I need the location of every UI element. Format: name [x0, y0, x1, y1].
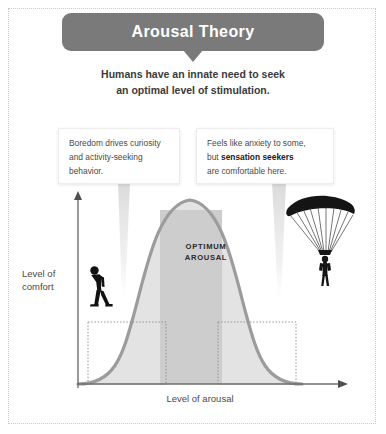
subtitle-line-2: an optimal level of stimulation.	[43, 82, 343, 98]
arousal-theory-infographic: Arousal Theory Humans have an innate nee…	[0, 0, 386, 434]
callout-right-line-2-emphasis: sensation seekers	[221, 152, 294, 162]
arousal-curve-chart	[18, 186, 368, 416]
callout-left-line-3: behavior.	[69, 165, 170, 179]
title-banner-box: Arousal Theory	[62, 13, 324, 51]
title-banner-tail-icon	[183, 50, 203, 62]
paraglider-silhouette-icon	[286, 196, 354, 286]
subtitle-line-1: Humans have an innate need to seek	[43, 66, 343, 82]
title-banner: Arousal Theory	[62, 13, 324, 63]
callout-right-line-2: but sensation seekers	[207, 151, 324, 165]
optimum-label-line-2: AROUSAL	[160, 252, 252, 263]
x-axis-label: Level of arousal	[100, 393, 300, 406]
callout-left-line-2: and activity-seeking	[69, 151, 170, 165]
callout-high-arousal: Feels like anxiety to some, but sensatio…	[196, 128, 334, 184]
callout-low-arousal: Boredom drives curiosity and activity-se…	[58, 128, 180, 184]
subtitle: Humans have an innate need to seek an op…	[43, 66, 343, 99]
callout-right-line-2-prefix: but	[207, 152, 221, 162]
optimum-label-line-1: OPTIMUM	[160, 241, 252, 252]
y-axis-label: Level of comfort	[22, 268, 72, 294]
callout-right-line-3: are comfortable here.	[207, 165, 324, 179]
y-axis-label-line-1: Level of	[22, 268, 72, 281]
callout-right-line-1: Feels like anxiety to some,	[207, 137, 324, 151]
x-axis-arrow-icon	[338, 380, 348, 388]
page-title: Arousal Theory	[132, 24, 255, 40]
y-axis-arrow-icon	[74, 191, 82, 200]
optimum-arousal-label: OPTIMUM AROUSAL	[160, 241, 252, 263]
callout-left-line-1: Boredom drives curiosity	[69, 137, 170, 151]
optimum-arousal-band	[160, 210, 222, 384]
walking-person-silhouette-icon	[90, 266, 113, 306]
arousal-curve-svg	[18, 186, 368, 416]
y-axis-label-line-2: comfort	[22, 281, 72, 294]
